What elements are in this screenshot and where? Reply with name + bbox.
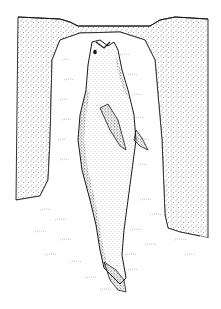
- illustration: [0, 0, 221, 309]
- seal-eye-icon: [93, 50, 97, 54]
